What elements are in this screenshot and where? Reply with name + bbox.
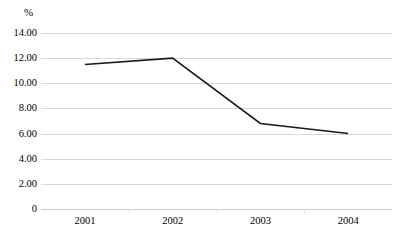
x-axis-tick-mark (304, 209, 305, 213)
x-axis-tick-label: 2002 (129, 215, 217, 227)
x-axis-tick-mark (129, 209, 130, 213)
gridline (41, 159, 392, 160)
gridline (41, 58, 392, 59)
y-axis-tick-label: 14.00 (0, 27, 37, 38)
y-axis-tick-label: 0 (0, 203, 37, 214)
x-axis-tick-mark (217, 209, 218, 213)
y-axis-tick-label: 4.00 (0, 153, 37, 164)
line-chart: % 14.0012.0010.008.006.004.002.000 20012… (0, 0, 400, 244)
y-axis-tick-label: 8.00 (0, 102, 37, 113)
x-axis-tick-label: 2004 (304, 215, 392, 227)
x-axis-tick-label: 2001 (41, 215, 129, 227)
gridline (41, 184, 392, 185)
gridline (41, 83, 392, 84)
gridline (41, 108, 392, 109)
x-axis-tick-label: 2003 (217, 215, 305, 227)
y-axis-tick-label: 2.00 (0, 178, 37, 189)
y-axis-tick-label: 12.00 (0, 52, 37, 63)
y-axis-unit-label: % (24, 6, 33, 18)
plot-area (41, 33, 392, 209)
y-axis-tick-label: 10.00 (0, 77, 37, 88)
gridline (41, 33, 392, 34)
gridline (41, 134, 392, 135)
y-axis-tick-label: 6.00 (0, 128, 37, 139)
